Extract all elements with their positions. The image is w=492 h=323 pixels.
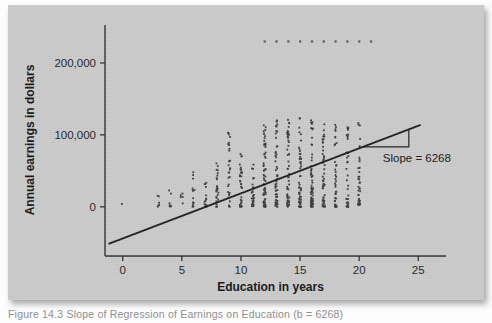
- scatter-point: [251, 204, 253, 206]
- scatter-point: [263, 177, 265, 179]
- scatter-point: [299, 167, 301, 169]
- scatter-point: [275, 190, 277, 192]
- scatter-point: [121, 203, 123, 205]
- scatter-point: [358, 201, 360, 203]
- scatter-point: [276, 124, 278, 126]
- scatter-point: [299, 150, 301, 152]
- slope-annotation-label: Slope = 6268: [383, 152, 451, 164]
- scatter-point: [335, 128, 337, 130]
- x-axis-ticks: 0510152025: [120, 256, 425, 276]
- scatter-point: [276, 120, 278, 122]
- scatter-point: [216, 175, 218, 177]
- y-tick-label: 100,000: [54, 129, 96, 141]
- scatter-point: [158, 202, 160, 204]
- scatter-point: [359, 167, 361, 169]
- scatter-point: [324, 164, 326, 166]
- scatter-point: [277, 189, 279, 191]
- scatter-point: [311, 176, 313, 178]
- scatter-point: [347, 161, 349, 163]
- scatter-point: [288, 165, 290, 167]
- scatter-point: [310, 170, 312, 172]
- scatter-point: [287, 119, 289, 121]
- scatter-point: [205, 182, 207, 184]
- scatter-point: [263, 124, 265, 126]
- scatter-point: [275, 169, 277, 171]
- scatter-point: [241, 155, 243, 157]
- scatter-point: [240, 175, 242, 177]
- scatter-point: [252, 190, 254, 192]
- scatter-point: [228, 134, 230, 136]
- scatter-point: [240, 168, 242, 170]
- scatter-point: [322, 180, 324, 182]
- scatter-point: [215, 206, 217, 208]
- topcoded-point: [346, 40, 348, 42]
- scatter-point: [359, 125, 361, 127]
- scatter-point: [263, 140, 265, 142]
- scatter-point: [182, 196, 184, 198]
- scatter-point: [298, 127, 300, 129]
- scatter-point: [287, 136, 289, 138]
- scatter-point: [310, 174, 312, 176]
- scatter-point: [299, 153, 301, 155]
- scatter-point: [334, 204, 336, 206]
- scatter-point: [264, 135, 266, 137]
- scatter-point: [312, 182, 314, 184]
- scatter-point: [229, 200, 231, 202]
- scatter-point: [240, 196, 242, 198]
- scatter-point: [287, 176, 289, 178]
- scatter-point: [287, 140, 289, 142]
- scatter-point: [347, 198, 349, 200]
- scatter-point: [265, 168, 267, 170]
- scatter-point: [276, 205, 278, 207]
- scatter-point: [265, 152, 267, 154]
- scatter-point: [311, 202, 313, 204]
- scatter-point: [288, 126, 290, 128]
- topcoded-point: [323, 40, 325, 42]
- scatter-point: [180, 194, 182, 196]
- topcoded-point: [335, 40, 337, 42]
- scatter-point: [276, 175, 278, 177]
- scatter-point: [204, 203, 206, 205]
- scatter-point: [347, 206, 349, 208]
- scatter-point: [205, 186, 207, 188]
- scatter-point: [182, 202, 184, 204]
- scatter-point: [217, 165, 219, 167]
- scatter-point: [286, 202, 288, 204]
- scatter-point: [300, 187, 302, 189]
- scatter-point: [324, 206, 326, 208]
- scatter-point: [265, 143, 267, 145]
- scatter-point: [322, 204, 324, 206]
- scatter-point: [334, 197, 336, 199]
- scatter-point: [288, 153, 290, 155]
- scatter-point: [347, 175, 349, 177]
- scatter-point: [358, 171, 360, 173]
- scatter-point: [253, 200, 255, 202]
- scatter-point: [358, 190, 360, 192]
- scatter-point: [217, 192, 219, 194]
- scatter-point: [275, 137, 277, 139]
- scatter-point: [335, 174, 337, 176]
- scatter-point: [311, 123, 313, 125]
- scatter-point: [335, 126, 337, 128]
- scatter-point: [287, 200, 289, 202]
- scatter-point: [299, 148, 301, 150]
- scatter-point: [322, 146, 324, 148]
- scatter-point: [276, 154, 278, 156]
- scatter-point: [192, 178, 194, 180]
- scatter-point: [311, 154, 313, 156]
- x-tick-label: 10: [235, 264, 248, 276]
- scatter-point: [229, 148, 231, 150]
- scatter-point: [182, 193, 184, 195]
- scatter-point: [322, 139, 324, 141]
- scatter-point: [298, 182, 300, 184]
- scatter-point: [312, 121, 314, 123]
- scatter-point: [334, 200, 336, 202]
- topcoded-point: [287, 40, 289, 42]
- scatter-point: [323, 202, 325, 204]
- scatter-point: [252, 184, 254, 186]
- scatter-point: [300, 206, 302, 208]
- scatter-point: [241, 200, 243, 202]
- scatter-point: [347, 136, 349, 138]
- scatter-point: [287, 133, 289, 135]
- scatter-point: [310, 191, 312, 193]
